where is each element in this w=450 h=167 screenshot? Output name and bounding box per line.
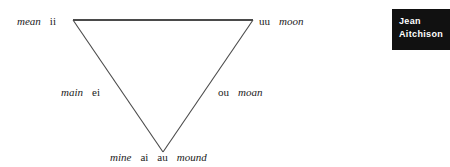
label-close-back-symbol: uu [259, 15, 270, 27]
triangle-left-edge [73, 20, 163, 152]
label-mid-front-word: main [61, 86, 83, 98]
label-open-symbol-left: ai [140, 151, 148, 163]
label-close-front-symbol: ii [50, 15, 56, 27]
label-close-back-word: moon [279, 15, 303, 27]
label-open-word-left: mine [110, 151, 131, 163]
label-mid-back: oumoan [218, 87, 262, 98]
label-close-back: uumoon [259, 16, 303, 27]
label-close-front-word: mean [17, 15, 41, 27]
label-mid-front-symbol: ei [92, 86, 100, 98]
label-mid-back-word: moan [238, 86, 262, 98]
label-mid-back-symbol: ou [218, 86, 229, 98]
label-open: mineaiaumound [110, 152, 207, 163]
label-open-word-right: mound [177, 151, 207, 163]
author-badge: Jean Aitchison [392, 9, 450, 50]
label-mid-front: mainei [61, 87, 100, 98]
vowel-triangle-svg [0, 0, 450, 167]
author-badge-line-1: Jean [399, 15, 450, 28]
label-open-symbol-right: au [157, 151, 167, 163]
label-close-front: meanii [17, 16, 56, 27]
author-badge-line-2: Aitchison [399, 28, 450, 41]
vowel-triangle-figure: meanii uumoon mainei oumoan mineaiaumoun… [0, 0, 450, 167]
